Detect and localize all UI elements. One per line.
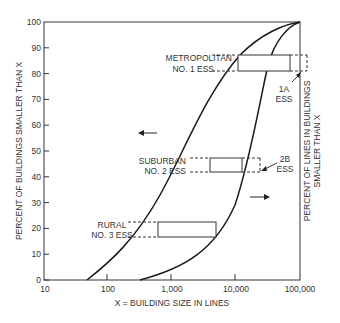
y-axis-label-left: PERCENT OF BUILDINGS SMALLER THAN X	[14, 62, 24, 241]
ess-2b-label-1: 2B	[280, 154, 291, 164]
y-axis-label-right-2: SMALLER THAN X	[312, 114, 322, 187]
x-axis	[107, 274, 235, 280]
metro-label-1: METROPOLITAN	[166, 53, 232, 63]
svg-text:40: 40	[32, 172, 42, 182]
x-axis-label: X = BUILDING SIZE IN LINES	[115, 298, 230, 308]
metro-label-2: NO. 1 ESS	[172, 64, 214, 74]
svg-text:10: 10	[32, 249, 42, 259]
svg-text:50: 50	[32, 146, 42, 156]
svg-text:70: 70	[32, 94, 42, 104]
y-axis-label-right-1: PERCENT OF LINES IN BUILDINGS	[302, 80, 312, 221]
ess-2b-arrowhead	[261, 166, 267, 171]
rural-label-2: NO. 3 ESS	[91, 230, 133, 240]
svg-text:90: 90	[32, 43, 42, 53]
svg-text:100: 100	[101, 284, 115, 294]
svg-text:100: 100	[27, 17, 41, 27]
svg-text:80: 80	[32, 69, 42, 79]
svg-text:60: 60	[32, 120, 42, 130]
chart: 0 10 20 30 40 50 60 70 80 90 100 10 100 …	[0, 0, 340, 323]
svg-text:10: 10	[40, 284, 50, 294]
y-tick-labels: 0 10 20 30 40 50 60 70 80 90 100	[27, 17, 41, 285]
suburban-label-1: SUBURBAN	[139, 156, 186, 166]
svg-text:10,000: 10,000	[223, 284, 249, 294]
svg-text:1,000: 1,000	[161, 284, 183, 294]
rural-label-1: RURAL	[98, 220, 127, 230]
y-axis-left	[44, 48, 49, 280]
svg-text:20: 20	[32, 223, 42, 233]
left-arrow-icon	[138, 130, 157, 136]
ess-1a-label-1: 1A	[279, 84, 290, 94]
suburban-label-2: NO. 2 ESS	[144, 166, 186, 176]
x-tick-labels: 10 100 1,000 10,000 100,000	[40, 284, 315, 294]
ess-1a-label-2: ESS	[275, 94, 292, 104]
svg-text:30: 30	[32, 198, 42, 208]
suburban-band	[190, 158, 260, 172]
svg-text:100,000: 100,000	[285, 284, 316, 294]
right-arrow-icon	[250, 194, 270, 200]
ess-2b-label-2: ESS	[276, 164, 293, 174]
